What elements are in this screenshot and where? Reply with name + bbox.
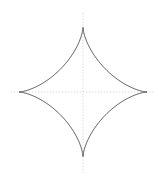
astroid-figure	[0, 0, 168, 181]
astroid-svg	[0, 0, 168, 181]
